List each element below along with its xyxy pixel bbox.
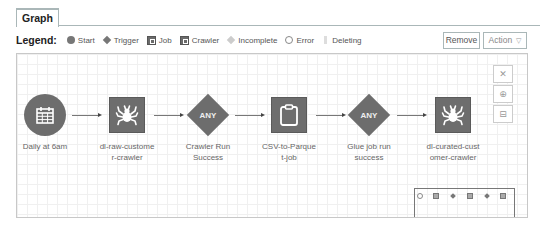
zoom-out-button[interactable]: ⊟ — [493, 105, 513, 123]
trigger-any-text: ANY — [361, 110, 378, 119]
legend-label: Error — [296, 36, 314, 45]
legend-item-incomplete: Incomplete — [227, 36, 277, 45]
node-label: Glue job runsuccess — [329, 141, 409, 163]
legend-label: Job — [159, 36, 172, 45]
graph-edge — [72, 115, 100, 116]
zoom-in-icon: ⊕ — [499, 89, 507, 99]
node-label-line: Crawler Run — [168, 141, 248, 152]
deleting-bar-icon — [324, 36, 327, 44]
graph-node-job[interactable] — [271, 97, 307, 133]
graph-canvas[interactable]: Daily at 6am dl-raw-customer-crawler ANY… — [16, 53, 528, 218]
node-label-line: CSV-to-Parque — [249, 141, 329, 152]
close-icon: ✕ — [499, 69, 507, 79]
node-label-line: Daily at 6am — [16, 141, 85, 152]
crawler-square-icon — [180, 36, 189, 45]
zoom-in-button[interactable]: ⊕ — [493, 85, 513, 103]
legend-item-job: Job — [147, 36, 172, 45]
minimap-node-crawler — [500, 193, 506, 199]
node-label: Daily at 6am — [16, 141, 85, 152]
node-label-line: omer-crawler — [413, 152, 493, 163]
graph-edge — [235, 115, 263, 116]
zoom-out-icon: ⊟ — [499, 109, 507, 119]
calendar-icon — [35, 105, 55, 125]
graph-node-trigger[interactable]: ANY — [187, 94, 229, 136]
node-label-line: Success — [168, 152, 248, 163]
spider-icon — [115, 103, 139, 127]
node-label: Crawler RunSuccess — [168, 141, 248, 163]
node-label: CSV-to-Parquet-job — [249, 141, 329, 163]
legend-label: Start — [78, 36, 95, 45]
tab-bar-divider — [58, 25, 540, 26]
tab-graph[interactable]: Graph — [16, 8, 59, 27]
legend-label: Crawler — [192, 36, 220, 45]
minimap-node-crawler — [433, 193, 439, 199]
graph-node-crawler[interactable] — [109, 97, 145, 133]
node-label-line: dl-raw-custome — [87, 141, 167, 152]
graph-node-trigger[interactable]: ANY — [348, 94, 390, 136]
remove-button[interactable]: Remove — [443, 32, 480, 49]
node-label: dl-raw-customer-crawler — [87, 141, 167, 163]
graph-node-start[interactable] — [24, 94, 66, 136]
minimap-node-job — [467, 193, 473, 199]
legend: Legend: Start Trigger Job Crawler Incomp… — [16, 32, 370, 48]
node-label-line: r-crawler — [87, 152, 167, 163]
legend-label: Trigger — [114, 36, 139, 45]
clipboard-icon — [278, 103, 300, 127]
node-label-line: t-job — [249, 152, 329, 163]
spider-icon — [441, 103, 465, 127]
legend-item-trigger: Trigger — [103, 36, 139, 45]
node-label-line: Glue job run — [329, 141, 409, 152]
tab-bar: Graph — [0, 0, 540, 27]
job-square-icon — [147, 36, 156, 45]
reset-view-button[interactable]: ✕ — [493, 65, 513, 83]
graph-edge — [397, 115, 425, 116]
error-circle-icon — [285, 36, 293, 44]
node-label-line: success — [329, 152, 409, 163]
node-label-line: dl-curated-cust — [413, 141, 493, 152]
legend-item-start: Start — [67, 36, 95, 45]
incomplete-diamond-icon — [227, 36, 235, 44]
legend-item-deleting: Deleting — [322, 36, 361, 45]
node-label: dl-curated-customer-crawler — [413, 141, 493, 163]
graph-node-crawler[interactable] — [435, 97, 471, 133]
graph-edge — [154, 115, 182, 116]
trigger-diamond-icon — [103, 36, 111, 44]
legend-item-crawler: Crawler — [180, 36, 220, 45]
legend-title: Legend: — [16, 34, 57, 46]
legend-label: Incomplete — [238, 36, 277, 45]
legend-item-error: Error — [285, 36, 314, 45]
legend-label: Deleting — [332, 36, 361, 45]
action-dropdown[interactable]: Action▽ — [483, 32, 527, 49]
minimap-node-trigger — [484, 193, 490, 199]
minimap[interactable] — [414, 188, 515, 218]
start-circle-icon — [67, 36, 75, 44]
trigger-any-text: ANY — [200, 110, 217, 119]
action-label: Action — [488, 35, 512, 45]
graph-edge — [316, 115, 344, 116]
chevron-down-icon: ▽ — [516, 37, 521, 44]
minimap-node-start — [417, 193, 423, 199]
minimap-node-trigger — [450, 193, 456, 199]
